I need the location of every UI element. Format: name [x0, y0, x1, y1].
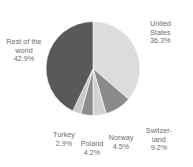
pie-label-norway: Norway 4.5%	[104, 134, 138, 151]
pie-label-switzerland: Switzer- land 9.2%	[139, 127, 179, 153]
pie-slice-group	[46, 22, 140, 116]
pie-label-united-states: United States 36.3%	[150, 20, 171, 46]
pie-label-rest-of-world: Rest of the world 42.9%	[2, 38, 46, 64]
pie-label-united-states-value: 36.3%	[150, 37, 171, 46]
pie-label-rest-of-world-value: 42.9%	[2, 55, 46, 64]
pie-label-norway-value: 4.5%	[104, 143, 138, 152]
pie-label-switzerland-value: 9.2%	[139, 144, 179, 153]
pie-chart: United States 36.3% Rest of the world 42…	[0, 0, 193, 167]
